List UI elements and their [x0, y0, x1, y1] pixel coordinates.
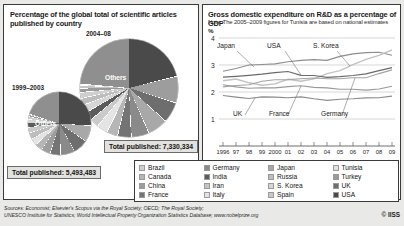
legend-swatch-icon	[333, 165, 339, 171]
legend-swatch-icon	[139, 165, 145, 171]
svg-text:2000: 2000	[269, 149, 282, 155]
legend-item-russia: Russia	[268, 172, 331, 181]
series-label-japan: Japan	[217, 42, 235, 49]
pie-period-label-recent: 2004–08	[86, 30, 111, 37]
legend-swatch-icon	[268, 165, 274, 171]
y-axis-ticks: 4 3 2 1	[211, 35, 215, 123]
legend-item-canada: Canada	[139, 172, 202, 181]
pie-period-label-older: 1999–2003	[12, 84, 44, 91]
series-label-usa: USA	[267, 42, 281, 49]
svg-text:02: 02	[298, 149, 304, 155]
svg-text:1: 1	[211, 116, 215, 123]
svg-text:01: 01	[285, 149, 291, 155]
series-label-germany: Germany	[321, 110, 348, 117]
svg-text:99: 99	[259, 149, 265, 155]
series-line-s-korea	[223, 50, 392, 85]
legend-item-brazil: Brazil	[139, 163, 202, 172]
total-published-recent: Total published: 7,330,334	[104, 140, 198, 153]
copyright-label: © IISS	[381, 211, 400, 218]
svg-text:97: 97	[233, 149, 239, 155]
svg-text:3: 3	[211, 62, 215, 69]
legend-item-spain: Spain	[268, 190, 331, 199]
series-line-france	[223, 85, 392, 90]
legend-item-france: France	[139, 190, 202, 199]
legend-swatch-icon	[204, 183, 210, 189]
svg-text:98: 98	[246, 149, 252, 155]
svg-text:04: 04	[324, 149, 331, 155]
legend-item-label: Russia	[277, 172, 297, 181]
legend-item-label: Iran	[213, 181, 224, 190]
legend-item-japan: Japan	[268, 163, 331, 172]
legend-item-uk: UK	[333, 181, 396, 190]
legend-item-italy: Italy	[204, 190, 267, 199]
svg-text:06: 06	[350, 149, 356, 155]
svg-text:08: 08	[376, 149, 382, 155]
legend-item-label: Brazil	[148, 163, 165, 172]
legend-item-iran: Iran	[204, 181, 267, 190]
x-axis-labels: 1996 97 98 99 2000 01 02 03 04 05 06 07 …	[217, 149, 396, 155]
rd-expenditure-plot: 4 3 2 1	[209, 34, 397, 166]
legend-swatch-icon	[333, 174, 339, 180]
legend-swatch-icon	[139, 183, 145, 189]
legend-item-label: India	[213, 172, 227, 181]
sources-line-1: Sources: Economist; Elsevier's Scopus vi…	[4, 205, 334, 212]
legend-swatch-icon	[333, 183, 339, 189]
svg-text:4: 4	[211, 35, 215, 42]
series-label-france: France	[269, 110, 290, 117]
legend-item-label: Turkey	[342, 172, 362, 181]
legend-item-usa: USA	[333, 190, 396, 199]
pie-others-label-older: Others	[35, 120, 56, 127]
legend-item-china: China	[139, 181, 202, 190]
legend-item-label: Germany	[213, 163, 240, 172]
series-line-uk	[223, 96, 392, 101]
infographic-page: Percentage of the global total of scient…	[0, 0, 404, 226]
svg-text:2: 2	[211, 89, 215, 96]
legend-item-label: Italy	[213, 190, 225, 199]
legend-grid: BrazilCanadaChinaFranceGermanyIndiaIranI…	[139, 163, 395, 199]
legend-item-label: France	[148, 190, 169, 199]
legend-item-s-korea: S. Korea	[268, 181, 331, 190]
pie-others-label-recent: Others	[105, 74, 126, 81]
legend-swatch-icon	[139, 174, 145, 180]
legend-item-label: Spain	[277, 190, 294, 199]
legend-swatch-icon	[139, 192, 145, 198]
sources-block: Sources: Economist; Elsevier's Scopus vi…	[4, 205, 334, 218]
svg-text:05: 05	[337, 149, 343, 155]
legend-swatch-icon	[204, 165, 210, 171]
series-label-uk: UK	[233, 110, 242, 117]
legend-item-germany: Germany	[204, 163, 267, 172]
svg-text:07: 07	[363, 149, 369, 155]
legend-item-tunisia: Tunisia	[333, 163, 396, 172]
legend-item-label: China	[148, 181, 165, 190]
legend-swatch-icon	[268, 183, 274, 189]
pie-chart-2004-08	[80, 39, 178, 137]
legend-swatch-icon	[268, 192, 274, 198]
legend-swatch-icon	[204, 192, 210, 198]
series-line-germany	[223, 70, 392, 87]
legend-item-label: UK	[342, 181, 351, 190]
svg-text:1996: 1996	[217, 149, 230, 155]
legend-item-label: USA	[342, 190, 356, 199]
left-panel-title: Percentage of the global total of scient…	[10, 10, 196, 28]
legend-swatch-icon	[268, 174, 274, 180]
x-axis-ticks	[223, 142, 392, 146]
pie-chart-area: 2004–08 1999–2003 Others Others	[4, 27, 200, 177]
country-legend: BrazilCanadaChinaFranceGermanyIndiaIranI…	[134, 160, 399, 202]
series-line-usa	[223, 68, 392, 78]
legend-item-label: S. Korea	[277, 181, 303, 190]
legend-item-turkey: Turkey	[333, 172, 396, 181]
svg-text:09: 09	[389, 149, 395, 155]
y-axis-unit-label: %	[208, 27, 214, 34]
svg-text:03: 03	[311, 149, 317, 155]
legend-item-label: Canada	[148, 172, 171, 181]
series-label-s-korea: S. Korea	[313, 42, 339, 49]
line-chart-svg: 4 3 2 1	[209, 34, 397, 166]
legend-item-label: Japan	[277, 163, 295, 172]
total-published-older: Total published: 5,493,483	[7, 166, 101, 179]
legend-swatch-icon	[333, 192, 339, 198]
legend-item-label: Tunisia	[342, 163, 363, 172]
legend-swatch-icon	[204, 174, 210, 180]
legend-item-india: India	[204, 172, 267, 181]
right-panel-note: Note: The 2005–2009 figures for Tunisia …	[208, 19, 400, 26]
sources-line-2: UNESCO Institute for Statistics; World I…	[4, 212, 334, 219]
